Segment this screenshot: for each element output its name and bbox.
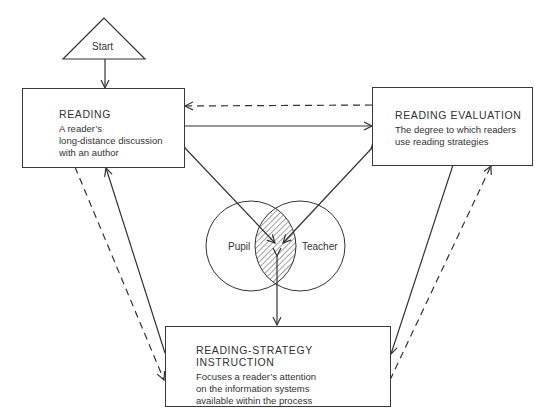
reading-box: READING A reader’s long-distance discuss… — [22, 88, 185, 168]
instruction-description: Focuses a reader’s attention on the info… — [196, 371, 390, 407]
arrow-eval-to-instruction — [391, 165, 453, 354]
start-label: Start — [92, 41, 113, 52]
arrow-instruction-to-reading — [106, 168, 165, 353]
dashed-arrow-eval-to-reading — [185, 105, 372, 106]
instruction-title: READING-STRATEGY INSTRUCTION — [196, 344, 390, 368]
reading-title: READING — [59, 108, 184, 120]
pupil-label: Pupil — [228, 241, 250, 252]
reading-strategy-instruction-box: READING-STRATEGY INSTRUCTION Focuses a r… — [165, 326, 391, 407]
reading-description: A reader’s long-distance discussion with… — [59, 123, 184, 159]
evaluation-title: READING EVALUATION — [395, 109, 532, 121]
reading-evaluation-box: READING EVALUATION The degree to which r… — [372, 87, 533, 166]
dashed-arrow-instruction-to-eval — [390, 166, 491, 380]
start-triangle — [63, 18, 145, 59]
arrow-reading-venn — [185, 148, 275, 243]
dashed-arrow-reading-to-instruction — [75, 167, 164, 380]
arrow-eval-venn — [283, 149, 371, 243]
evaluation-description: The degree to which readers use reading … — [395, 124, 532, 148]
teacher-label: Teacher — [302, 241, 338, 252]
